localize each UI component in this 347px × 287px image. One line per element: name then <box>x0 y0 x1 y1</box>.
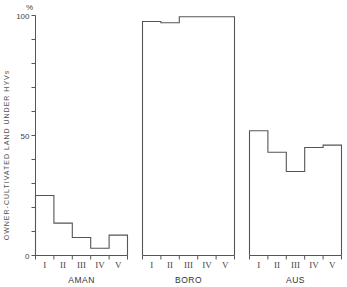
x-category-label: III <box>291 260 300 270</box>
panel-aus: IIIIIIIVVAUS <box>250 131 342 285</box>
x-category-label: II <box>274 260 280 270</box>
y-unit-label: % <box>26 3 33 12</box>
x-category-label: II <box>167 260 173 270</box>
chart: 050100 IIIIIIIVVAMANIIIIIIIVVBOROIIIIIII… <box>0 0 347 287</box>
x-category-label: III <box>77 260 86 270</box>
bar-outline <box>143 17 235 256</box>
chart-panels: IIIIIIIVVAMANIIIIIIIVVBOROIIIIIIIVVAUS <box>36 17 342 285</box>
panel-aman: IIIIIIIVVAMAN <box>36 196 128 285</box>
panel-title: AUS <box>286 275 305 285</box>
x-category-label: V <box>222 260 229 270</box>
y-axis: 050100 <box>16 12 35 261</box>
y-tick-label: 100 <box>16 12 30 21</box>
x-category-label: V <box>115 260 122 270</box>
x-category-label: II <box>60 260 66 270</box>
x-category-label: I <box>257 260 260 270</box>
x-category-label: IV <box>95 260 105 270</box>
x-category-label: IV <box>309 260 319 270</box>
panel-title: BORO <box>175 275 202 285</box>
y-tick-label: 50 <box>21 132 30 141</box>
x-category-label: III <box>184 260 193 270</box>
bar-outline <box>36 196 128 256</box>
x-category-label: I <box>150 260 153 270</box>
panel-title: AMAN <box>68 275 95 285</box>
x-category-label: I <box>43 260 46 270</box>
x-category-label: V <box>329 260 336 270</box>
y-axis-title: OWNER-CULTIVATED LAND UNDER HYVs <box>3 70 10 240</box>
bar-outline <box>250 131 342 256</box>
y-tick-label: 0 <box>25 252 30 261</box>
panel-boro: IIIIIIIVVBORO <box>143 17 235 285</box>
x-category-label: IV <box>202 260 212 270</box>
